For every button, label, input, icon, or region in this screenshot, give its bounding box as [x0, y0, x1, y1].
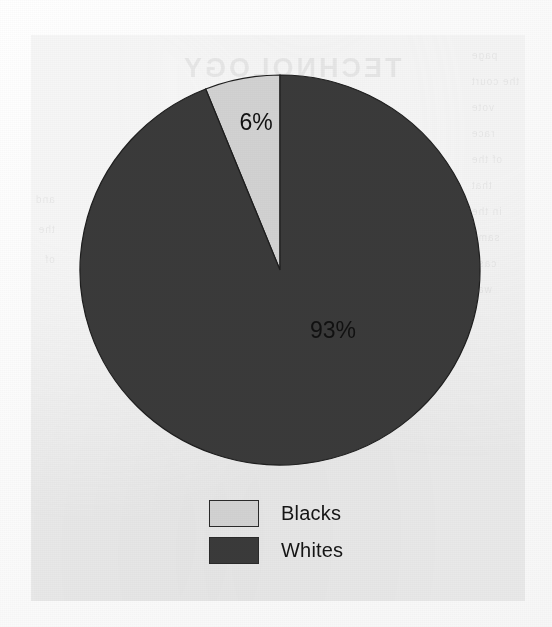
legend-swatch-blacks: [209, 500, 259, 527]
legend-label-blacks: Blacks: [281, 502, 341, 525]
pie-slice-whites: [80, 75, 480, 465]
legend-swatch-whites: [209, 537, 259, 564]
legend-item-whites: Whites: [209, 532, 419, 569]
pie-slice-label-whites: 93%: [310, 317, 356, 343]
chart-legend: Blacks Whites: [209, 495, 419, 569]
legend-label-whites: Whites: [281, 539, 343, 562]
pie-slice-label-blacks: 6%: [239, 109, 272, 135]
legend-item-blacks: Blacks: [209, 495, 419, 532]
pie-slices-group: [80, 75, 480, 465]
paper-sheet: TECHNOLOGY pagethe courtvoteraceof theth…: [31, 35, 525, 601]
scanned-page-image: TECHNOLOGY pagethe courtvoteraceof theth…: [0, 0, 552, 627]
